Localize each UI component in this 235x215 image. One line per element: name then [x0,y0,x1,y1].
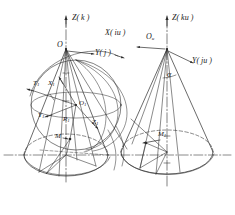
left-x-axis-label: X( iu ) [105,29,125,37]
left-y-axis-label: Y( j ) [95,49,111,57]
left-tangent-line-T1 [27,89,76,105]
left-base-chords [40,150,108,155]
radius-R1-label: R1 [63,116,70,123]
z1-axis-label: Z1 [92,119,98,126]
sphere-center-label: O1 [79,100,87,107]
right-apex-point [166,48,168,50]
right-y-axis-arrow [168,51,193,63]
left-radius-R1 [70,105,76,139]
right-apex-label: Ou [146,33,154,41]
left-y1-axis [45,105,76,117]
left-z-axis-label: Z( k ) [72,14,89,22]
right-y-axis-label: Y( ju ) [192,57,212,65]
right-cone-bottom-rim [121,154,214,175]
left-point-M-label: M [55,133,61,140]
diagram-canvas: Z( k ) O Y( j ) X( iu ) T1 X1 O1 Y1 R1 Z… [0,0,235,215]
tangent-T1-label: T1 [33,80,39,87]
left-apex-label: O [57,41,63,49]
x1-axis-label: X1 [48,80,55,87]
right-inner-construction [140,143,167,174]
left-cone-bottom-rim [24,157,110,175]
right-z-axis-label: Z( ku ) [172,14,193,22]
left-apex-point [65,48,67,50]
left-inner-construction [39,139,96,174]
y1-axis-label: Y1 [38,112,44,119]
alpha-angle-label: α [167,71,171,79]
right-x-axis-arrow [137,47,165,49]
right-point-M1-label: M1 [158,131,166,138]
right-point-M1 [143,140,160,144]
